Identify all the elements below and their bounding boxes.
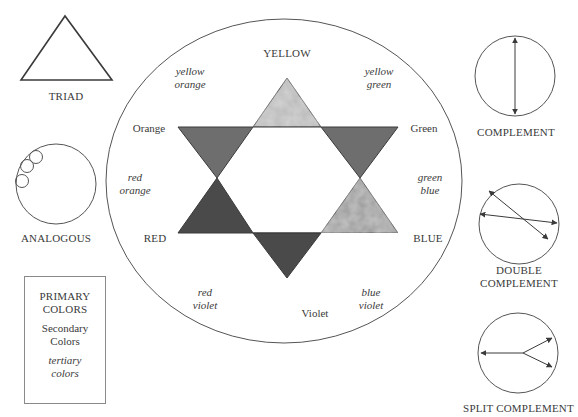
double-complement-icon — [479, 184, 559, 264]
tertiary-line: yellow — [176, 65, 205, 77]
split-complement-icon — [478, 313, 558, 393]
analogous-label: ANALOGOUS — [16, 232, 96, 245]
tertiary-line: blue — [362, 286, 381, 298]
legend-primary: PRIMARY COLORS — [25, 290, 105, 316]
label-orange: Orange — [124, 122, 174, 135]
tertiary-line: blue — [421, 184, 440, 196]
label-yellow-orange: yellow orange — [165, 65, 215, 91]
label-violet: Violet — [290, 307, 340, 320]
tertiary-line: violet — [193, 299, 217, 311]
legend-tertiary-line1: tertiary — [25, 354, 105, 367]
tertiary-line: red — [128, 171, 142, 183]
legend-primary-line1: PRIMARY — [25, 290, 105, 303]
legend-primary-line2: COLORS — [25, 303, 105, 316]
label-green: Green — [402, 122, 446, 135]
triangle-orange — [178, 127, 253, 178]
label-blue-violet: blue violet — [346, 286, 396, 312]
split-complement-label: SPLIT COMPLEMENT — [459, 402, 578, 415]
tertiary-line: orange — [174, 78, 205, 90]
legend-secondary-line1: Secondary — [25, 322, 105, 335]
hexagram-star — [178, 78, 398, 278]
triangle-green — [321, 127, 398, 178]
label-yellow-green: yellow green — [354, 65, 404, 91]
legend-secondary: Secondary Colors — [25, 322, 105, 348]
legend-box: PRIMARY COLORS Secondary Colors tertiary… — [24, 276, 106, 404]
triangle-violet — [253, 233, 321, 278]
double-complement-label: DOUBLE COMPLEMENT — [472, 264, 566, 290]
tertiary-line: orange — [119, 184, 150, 196]
label-yellow: YELLOW — [257, 47, 317, 60]
label-green-blue: green blue — [410, 171, 450, 197]
tertiary-line: green — [418, 171, 443, 183]
triangle-yellow — [253, 78, 321, 127]
legend-secondary-line2: Colors — [25, 335, 105, 348]
complement-icon — [475, 36, 555, 116]
triad-icon — [21, 16, 112, 80]
triangle-blue — [321, 178, 398, 233]
label-red: RED — [135, 232, 175, 245]
tertiary-line: yellow — [365, 65, 394, 77]
tertiary-line: green — [367, 78, 392, 90]
legend-tertiary: tertiary colors — [25, 354, 105, 380]
analogous-icon — [16, 144, 97, 224]
label-red-violet: red violet — [180, 286, 230, 312]
label-red-orange: red orange — [110, 171, 160, 197]
triangle-red — [178, 178, 253, 233]
tertiary-line: violet — [359, 299, 383, 311]
tertiary-line: red — [198, 286, 212, 298]
complement-label: COMPLEMENT — [470, 126, 562, 139]
legend-tertiary-line2: colors — [25, 367, 105, 380]
label-blue: BLUE — [408, 232, 448, 245]
triad-label: TRIAD — [36, 90, 96, 103]
double-complement-line2: COMPLEMENT — [480, 277, 558, 289]
double-complement-line1: DOUBLE — [496, 264, 542, 276]
